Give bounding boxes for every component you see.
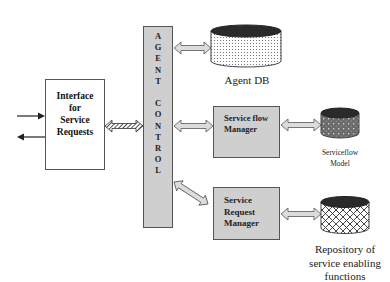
agent-srm-double-arrow (171, 177, 212, 209)
service-flow-manager-label-line: Manager (224, 124, 268, 135)
agent-control-letter: O (144, 109, 172, 120)
output-arrow (17, 134, 45, 141)
input-arrow (17, 113, 45, 120)
repository-label-line: functions (300, 270, 390, 282)
agent-control-letter: T (144, 76, 172, 87)
agent-db-double-arrow (174, 42, 211, 54)
serviceflow-model-cylinder-icon (321, 108, 359, 138)
serviceflow-model-label: Serviceflow Model (310, 147, 370, 169)
interface-label: Interface for Service Requests (46, 90, 104, 138)
agent-control-box: A G E N T C O N T R O L (143, 26, 173, 228)
repository-label-line: Repository of (300, 243, 390, 257)
agent-control-letter: N (144, 65, 172, 76)
repository-label: Repository of service enabling functions (300, 243, 390, 282)
agent-db-cylinder-icon (211, 25, 281, 67)
service-request-manager-label-line: Request (224, 207, 259, 219)
interface-label-line: for (46, 102, 104, 114)
interface-label-line: Service (46, 114, 104, 126)
service-request-manager-label: Service Request Manager (224, 195, 259, 230)
agent-sfm-double-arrow (174, 120, 213, 132)
agent-control-letter: C (144, 98, 172, 109)
interface-label-line: Interface (46, 90, 104, 102)
agent-control-letter (144, 87, 172, 98)
interface-label-line: Requests (46, 126, 104, 138)
srm-repo-double-arrow (281, 208, 321, 220)
agent-control-label: A G E N T C O N T R O L (144, 31, 172, 176)
service-flow-manager-label-line: Service flow (224, 113, 268, 124)
interface-agent-double-arrow (105, 120, 143, 132)
service-request-manager-label-line: Service (224, 195, 259, 207)
agent-control-letter: N (144, 121, 172, 132)
agent-control-letter: O (144, 154, 172, 165)
service-request-manager-box: Service Request Manager (213, 187, 280, 240)
service-request-manager-label-line: Manager (224, 218, 259, 230)
service-flow-manager-box: Service flow Manager (213, 106, 280, 158)
serviceflow-model-label-line: Model (310, 158, 370, 169)
interface-for-service-requests-box: Interface for Service Requests (45, 79, 105, 170)
agent-control-letter: G (144, 42, 172, 53)
repository-cylinder-icon (321, 197, 369, 234)
agent-control-letter: A (144, 31, 172, 42)
agent-control-letter: E (144, 53, 172, 64)
agent-control-letter: L (144, 165, 172, 176)
sfm-model-double-arrow (281, 119, 321, 131)
service-flow-manager-label: Service flow Manager (224, 113, 268, 135)
agent-control-letter: R (144, 143, 172, 154)
agent-db-label: Agent DB (211, 74, 283, 86)
repository-label-line: service enabling (300, 257, 390, 271)
serviceflow-model-label-line: Serviceflow (310, 147, 370, 158)
agent-control-letter: T (144, 132, 172, 143)
